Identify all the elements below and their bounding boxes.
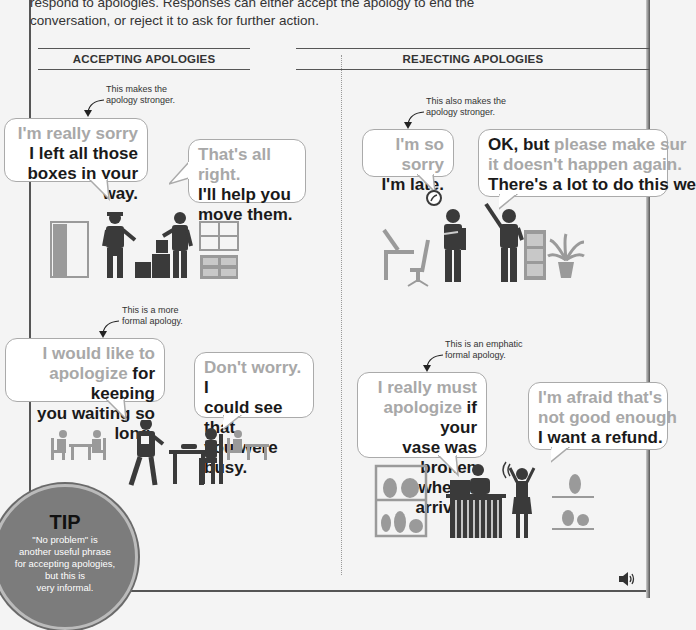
response-phrase: I'm afraid that's [538, 388, 658, 408]
apology-phrase: I would like to [15, 344, 155, 364]
response-phrase: please make sur [549, 135, 686, 154]
rejecting-section-title: REJECTING APOLOGIES [296, 48, 650, 70]
note-line: This is a more [122, 305, 183, 316]
tip-line: for accepting apologies, [9, 558, 121, 570]
annotation-note: This is a more formal apology. [122, 305, 183, 327]
speech-bubble-apology: I'm really sorry I left all those boxes … [4, 118, 148, 182]
apology-phrase: apologize [49, 364, 127, 383]
response-text: I want a refund. [538, 428, 658, 448]
speech-bubble-apology: I'm so sorry I'm late. [362, 129, 454, 177]
page-right-edge [646, 0, 650, 598]
accepting-section-title: ACCEPTING APOLOGIES [38, 48, 250, 70]
bubble-tail [106, 399, 130, 421]
delivery-scene-illustration [45, 212, 245, 280]
curved-arrow-icon [82, 98, 106, 118]
apology-phrase: I really must [367, 378, 477, 398]
annotation-note: This also makes the apology stronger. [426, 96, 506, 118]
speech-bubble-apology: I would like to apologize for keeping yo… [5, 338, 165, 402]
tip-line: very informal. [9, 582, 121, 594]
tip-body: "No problem" is another useful phrase fo… [0, 534, 135, 594]
bubble-tail [169, 162, 191, 186]
response-phrase: That's all right. [198, 145, 296, 185]
section-divider [341, 55, 342, 575]
speech-bubble-response: That's all right. I'll help you move the… [188, 139, 306, 203]
apology-text: boxes in your way. [14, 164, 138, 204]
apology-phrase: apologize [383, 398, 461, 417]
office-late-scene-illustration [378, 190, 588, 290]
tip-title: TIP [0, 511, 135, 534]
response-text: I [204, 378, 209, 397]
response-text: I'll help you [198, 185, 296, 205]
response-phrase: not good enough [538, 408, 658, 428]
apology-phrase: I'm really sorry [14, 124, 138, 144]
note-line: This makes the [106, 84, 175, 95]
curved-arrow-icon [421, 353, 445, 373]
note-line: formal apology. [122, 316, 183, 327]
response-text: OK, but [488, 135, 549, 154]
speech-bubble-apology: I really must apologize if your vase was… [357, 372, 487, 458]
tip-line: "No problem" is [9, 534, 121, 546]
tip-line: another useful phrase [9, 546, 121, 558]
speech-bubble-response: OK, but please make sur it doesn't happe… [478, 129, 668, 197]
apology-text: I left all those [14, 144, 138, 164]
note-line: apology stronger. [106, 95, 175, 106]
bubble-tail [89, 179, 113, 201]
note-line: This also makes the [426, 96, 506, 107]
restaurant-scene-illustration [45, 420, 275, 492]
curved-arrow-icon [402, 110, 426, 130]
tip-line: but this is [9, 570, 121, 582]
intro-line-1: respond to apologies. Responses can eith… [30, 0, 590, 12]
speech-bubble-response: Don't worry. I could see that you were b… [194, 352, 314, 418]
speech-bubble-response: I'm afraid that's not good enough I want… [528, 382, 668, 450]
curved-arrow-icon [97, 319, 121, 339]
response-phrase: Don't worry. [204, 358, 301, 377]
speaker-icon[interactable] [618, 571, 638, 587]
note-line: formal apology. [445, 350, 523, 361]
note-line: apology stronger. [426, 107, 506, 118]
vase-shop-scene-illustration [372, 460, 602, 540]
response-phrase: it doesn't happen again. [488, 155, 658, 175]
apology-phrase: I'm so sorry [372, 135, 444, 175]
annotation-note: This is an emphatic formal apology. [445, 339, 523, 361]
intro-text: respond to apologies. Responses can eith… [30, 0, 590, 30]
tip-callout: TIP "No problem" is another useful phras… [0, 484, 138, 630]
annotation-note: This makes the apology stronger. [106, 84, 175, 106]
note-line: This is an emphatic [445, 339, 523, 350]
intro-line-2: conversation, or reject it to ask for fu… [30, 12, 590, 30]
